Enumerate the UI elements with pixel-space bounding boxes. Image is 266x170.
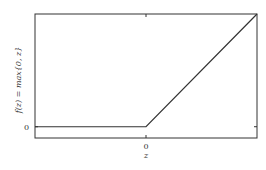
y-axis-label: f(z) = max{0, z}: [14, 47, 23, 115]
plot-frame: [35, 14, 257, 138]
series-line-relu: [35, 14, 257, 127]
y-tick-label: 0: [24, 123, 29, 132]
x-axis-label: z: [143, 151, 149, 160]
x-tick-label: 0: [143, 142, 148, 151]
relu-chart: 00 z f(z) = max{0, z}: [0, 0, 266, 170]
